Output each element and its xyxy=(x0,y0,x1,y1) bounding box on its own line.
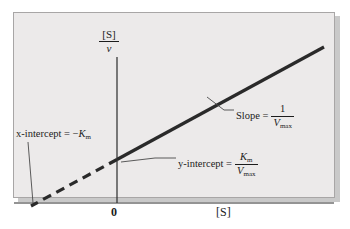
y-intercept-fraction: Km Vmax xyxy=(235,152,257,176)
slope-annotation: Slope = 1 Vmax xyxy=(236,104,294,128)
x-intercept-annotation-label: x-intercept = − xyxy=(16,128,79,139)
hanes-woolf-plot-figure: [S] v 0 [S] Slope = 1 Vmax y-intercept =… xyxy=(0,0,350,229)
y-intercept-numerator-base: K xyxy=(240,151,247,162)
y-intercept-leader-line xyxy=(121,158,176,162)
y-intercept-annotation: y-intercept = Km Vmax xyxy=(178,152,258,176)
y-axis-label: [S] v xyxy=(92,29,126,54)
x-intercept-symbol-base: K xyxy=(79,128,86,139)
slope-denominator-subscript: max xyxy=(280,122,292,130)
x-axis-label: [S] xyxy=(216,206,231,218)
slope-fraction: 1 Vmax xyxy=(271,104,293,128)
y-intercept-numerator-subscript: m xyxy=(247,156,252,164)
y-intercept-fraction-denominator: Vmax xyxy=(235,165,257,177)
data-line-dashed-extrapolation xyxy=(31,160,117,207)
slope-fraction-numerator: 1 xyxy=(278,104,287,116)
slope-denominator-base: V xyxy=(273,117,279,128)
slope-annotation-label: Slope = xyxy=(236,111,271,122)
zero-tick-label: 0 xyxy=(111,206,117,218)
x-intercept-symbol-subscript: m xyxy=(86,133,91,141)
y-axis-label-numerator: [S] xyxy=(92,29,126,41)
x-intercept-annotation: x-intercept = −Km xyxy=(16,129,91,140)
y-intercept-annotation-label: y-intercept = xyxy=(178,159,235,170)
x-intercept-leader-line xyxy=(28,142,33,203)
plot-canvas xyxy=(0,0,350,229)
slope-fraction-denominator: Vmax xyxy=(271,117,293,129)
y-intercept-fraction-numerator: Km xyxy=(238,152,254,164)
y-intercept-denominator-subscript: max xyxy=(243,170,255,178)
y-axis-label-denominator: v xyxy=(92,42,126,54)
